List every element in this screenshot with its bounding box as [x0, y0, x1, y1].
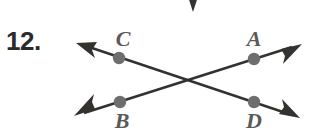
point-dot-b [114, 96, 126, 108]
geometry-figure: 12. C A B D [0, 0, 309, 139]
point-label-c: C [112, 28, 134, 50]
point-label-a: A [243, 28, 265, 50]
point-dot-c [113, 52, 125, 64]
point-dot-a [248, 53, 260, 65]
point-label-d: D [243, 110, 265, 132]
point-dot-d [248, 96, 260, 108]
point-label-b: B [111, 110, 133, 132]
partial-down-arrow-icon [187, 0, 200, 12]
